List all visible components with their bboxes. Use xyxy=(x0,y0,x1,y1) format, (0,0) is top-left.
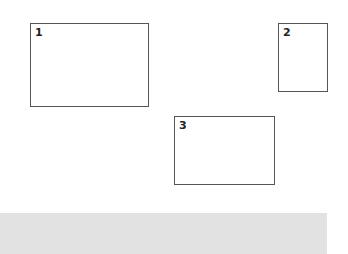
region-label-3: 3 xyxy=(179,120,187,131)
gray-bar xyxy=(0,213,327,254)
region-box-3: 3 xyxy=(174,116,275,185)
region-label-1: 1 xyxy=(35,27,43,38)
region-box-2: 2 xyxy=(278,23,328,92)
region-box-1: 1 xyxy=(30,23,149,107)
region-label-2: 2 xyxy=(283,27,291,38)
